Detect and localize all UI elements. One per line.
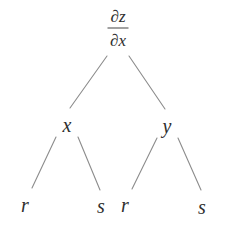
node-y-s: s	[198, 197, 206, 217]
node-y-r: r	[121, 195, 129, 215]
tree-diagram: ∂z ∂x x y r s r s	[0, 0, 230, 227]
root-numerator: ∂z	[109, 7, 126, 26]
edge-y-s	[178, 138, 201, 190]
edge-x-r	[32, 137, 56, 188]
node-x-r: r	[21, 195, 29, 215]
edge-root-y	[129, 56, 165, 109]
fraction-bar	[108, 28, 129, 29]
root-denominator: ∂x	[109, 31, 127, 50]
root-node-partial-derivative: ∂z ∂x	[108, 7, 129, 50]
node-x: x	[63, 115, 72, 135]
edge-x-s	[78, 137, 100, 190]
node-x-s: s	[97, 196, 105, 216]
edge-y-r	[132, 138, 157, 189]
edge-root-x	[70, 56, 107, 108]
node-y: y	[163, 116, 172, 136]
